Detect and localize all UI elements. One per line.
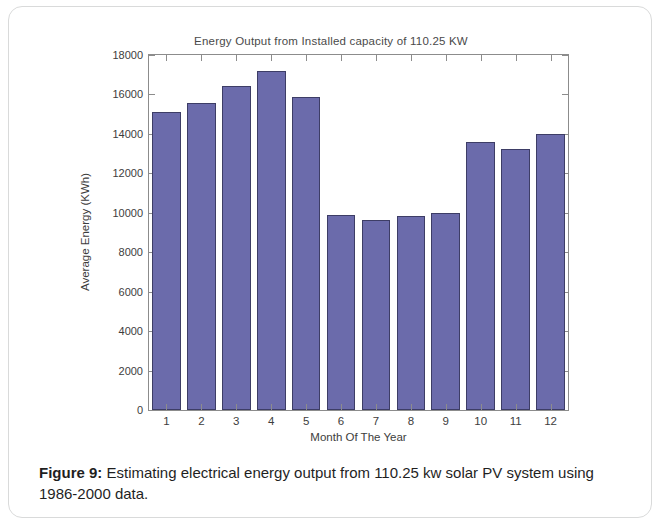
y-axis-tick xyxy=(562,94,568,95)
x-axis-tick xyxy=(551,404,552,410)
x-axis-tick-label: 5 xyxy=(303,415,309,427)
bar xyxy=(292,97,321,410)
bar xyxy=(327,215,356,410)
plot-inner: 0200040006000800010000120001400016000180… xyxy=(149,55,568,410)
bar xyxy=(152,112,181,410)
bar xyxy=(257,71,286,410)
x-axis-tick xyxy=(201,404,202,410)
x-axis-tick-label: 2 xyxy=(198,415,204,427)
x-axis-tick-label: 11 xyxy=(510,415,522,427)
y-axis-tick-label: 18000 xyxy=(112,49,143,61)
y-axis-tick-label: 0 xyxy=(137,404,143,416)
x-axis-tick xyxy=(271,55,272,61)
x-axis-tick xyxy=(376,55,377,61)
y-axis-tick-label: 16000 xyxy=(112,88,143,100)
x-axis-tick-label: 7 xyxy=(373,415,379,427)
x-axis-tick-label: 10 xyxy=(474,415,487,427)
x-axis-tick-label: 1 xyxy=(163,415,169,427)
x-axis-tick xyxy=(236,55,237,61)
bar xyxy=(187,103,216,410)
bar xyxy=(397,216,426,410)
x-axis-tick xyxy=(411,404,412,410)
x-axis-tick xyxy=(516,55,517,61)
bar xyxy=(362,220,391,410)
y-axis-tick-label: 4000 xyxy=(119,325,143,337)
x-axis-tick xyxy=(236,404,237,410)
x-axis-tick-label: 12 xyxy=(544,415,557,427)
figure-card: Energy Output from Installed capacity of… xyxy=(8,6,652,518)
x-axis-tick xyxy=(306,404,307,410)
figure-caption-label: Figure 9: xyxy=(39,464,102,481)
x-axis-tick xyxy=(271,404,272,410)
x-axis-tick xyxy=(446,55,447,61)
bar xyxy=(501,149,530,410)
x-axis-tick xyxy=(446,404,447,410)
x-axis-tick xyxy=(551,55,552,61)
y-axis-tick-label: 12000 xyxy=(112,167,143,179)
x-axis-tick-label: 8 xyxy=(408,415,414,427)
x-axis-tick xyxy=(341,55,342,61)
x-axis-tick-label: 9 xyxy=(443,415,449,427)
y-axis-tick-label: 6000 xyxy=(119,286,143,298)
plot-area: 0200040006000800010000120001400016000180… xyxy=(148,54,569,411)
x-axis-tick xyxy=(376,404,377,410)
bar xyxy=(222,86,251,410)
bar xyxy=(431,213,460,410)
x-axis-tick xyxy=(166,404,167,410)
x-axis-tick xyxy=(411,55,412,61)
x-axis-tick xyxy=(481,55,482,61)
x-axis-tick xyxy=(201,55,202,61)
y-axis-label: Average Energy (KWh) xyxy=(79,173,91,291)
x-axis-tick xyxy=(306,55,307,61)
y-axis-tick-label: 2000 xyxy=(119,365,143,377)
figure-caption-text: Estimating electrical energy output from… xyxy=(39,464,594,502)
figure-caption: Figure 9: Estimating electrical energy o… xyxy=(39,462,621,504)
figure-area: Energy Output from Installed capacity of… xyxy=(9,7,652,452)
y-axis-tick xyxy=(149,55,155,56)
x-axis-tick xyxy=(516,404,517,410)
x-axis-tick-label: 4 xyxy=(268,415,274,427)
bar xyxy=(466,142,495,410)
y-axis-tick-label: 10000 xyxy=(112,207,143,219)
chart-title: Energy Output from Installed capacity of… xyxy=(9,35,652,47)
y-axis-tick-label: 8000 xyxy=(119,246,143,258)
x-axis-label: Month Of The Year xyxy=(148,431,569,443)
x-axis-tick xyxy=(481,404,482,410)
x-axis-tick xyxy=(341,404,342,410)
bar xyxy=(536,134,565,410)
y-axis-tick xyxy=(562,410,568,411)
y-axis-tick xyxy=(149,410,155,411)
y-axis-tick xyxy=(562,55,568,56)
x-axis-tick xyxy=(166,55,167,61)
y-axis-tick-label: 14000 xyxy=(112,128,143,140)
x-axis-tick-label: 6 xyxy=(338,415,344,427)
x-axis-tick-label: 3 xyxy=(233,415,239,427)
y-axis-tick xyxy=(149,94,155,95)
